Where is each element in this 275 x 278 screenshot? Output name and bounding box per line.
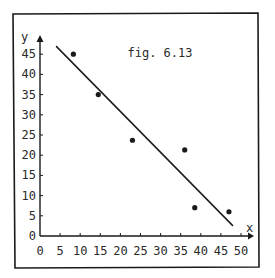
y-tick-label: 15 xyxy=(22,168,36,182)
y-tick-label: 5 xyxy=(29,209,36,223)
data-point xyxy=(226,209,231,214)
fitted-line xyxy=(56,46,233,226)
x-tick-label: 10 xyxy=(73,244,87,258)
y-tick-label: 20 xyxy=(22,148,36,162)
x-tick-label: 15 xyxy=(93,244,107,258)
x-tick-label: 0 xyxy=(36,244,43,258)
y-tick-label: 45 xyxy=(22,47,36,61)
y-tick-label: 35 xyxy=(22,88,36,102)
y-tick-label: 30 xyxy=(22,108,36,122)
data-point xyxy=(130,138,135,143)
x-tick-label: 50 xyxy=(234,244,248,258)
x-tick-label: 40 xyxy=(194,244,208,258)
y-tick-label: 0 xyxy=(29,229,36,243)
data-point xyxy=(182,147,187,152)
x-axis-label: x xyxy=(246,221,253,235)
x-tick-label: 5 xyxy=(56,244,63,258)
chart-title: fig. 6.13 xyxy=(127,46,192,60)
y-tick-label: 40 xyxy=(22,67,36,81)
data-point xyxy=(96,92,101,97)
chart-canvas: xy05101520253035404550051015202530354045… xyxy=(0,0,275,278)
data-point xyxy=(71,52,76,57)
x-tick-label: 45 xyxy=(214,244,228,258)
data-point xyxy=(192,205,197,210)
x-tick-label: 35 xyxy=(173,244,187,258)
y-axis-label: y xyxy=(21,30,28,44)
x-tick-label: 25 xyxy=(133,244,147,258)
y-tick-label: 25 xyxy=(22,128,36,142)
y-tick-label: 10 xyxy=(22,189,36,203)
y-axis-arrow-icon xyxy=(37,35,44,42)
x-tick-label: 20 xyxy=(113,244,127,258)
x-tick-label: 30 xyxy=(153,244,167,258)
